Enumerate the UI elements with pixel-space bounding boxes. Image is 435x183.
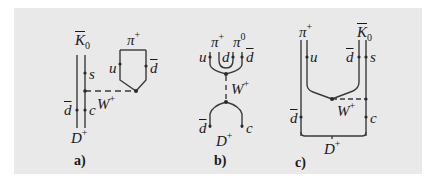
label-d-meson-b: D+ (216, 134, 232, 149)
label-dbar-right-a: d (150, 61, 158, 76)
label-pion-c: π+ (299, 25, 312, 40)
label-w-boson-a: W+ (97, 97, 115, 112)
caption-c: c) (295, 156, 306, 170)
label-dbar-upper-c: d (346, 50, 354, 65)
label-pion-plus-b: π+ (211, 35, 224, 50)
label-u-quark-c: u (310, 50, 318, 65)
caption-a: a) (74, 154, 86, 168)
label-d-meson-a: D+ (71, 131, 87, 146)
label-dbar-b: d (246, 50, 254, 65)
label-pion-a: π+ (127, 33, 140, 48)
label-c-quark-a: c (89, 103, 96, 118)
label-kaon-c: K0 (357, 25, 372, 40)
label-d-quark-b: d (222, 50, 230, 65)
label-dbar-left-a: d (64, 103, 72, 118)
label-c-quark-b: c (246, 121, 253, 136)
label-w-boson-c: W+ (337, 104, 355, 119)
label-s-quark-c: s (370, 50, 376, 65)
label-s-quark-a: s (89, 67, 95, 82)
label-c-quark-c: c (370, 111, 377, 126)
caption-b: b) (214, 154, 226, 168)
label-u-quark-a: u (109, 61, 117, 76)
label-pion-zero-b: π0 (233, 35, 246, 50)
label-kaon-a: K0 (75, 33, 90, 48)
label-d-meson-c: D+ (324, 142, 340, 157)
label-dbar-lower-b: d (199, 121, 207, 136)
label-dbar-lower-c: d (290, 111, 298, 126)
label-w-boson-b: W+ (231, 82, 249, 97)
label-u-quark-b: u (199, 50, 207, 65)
